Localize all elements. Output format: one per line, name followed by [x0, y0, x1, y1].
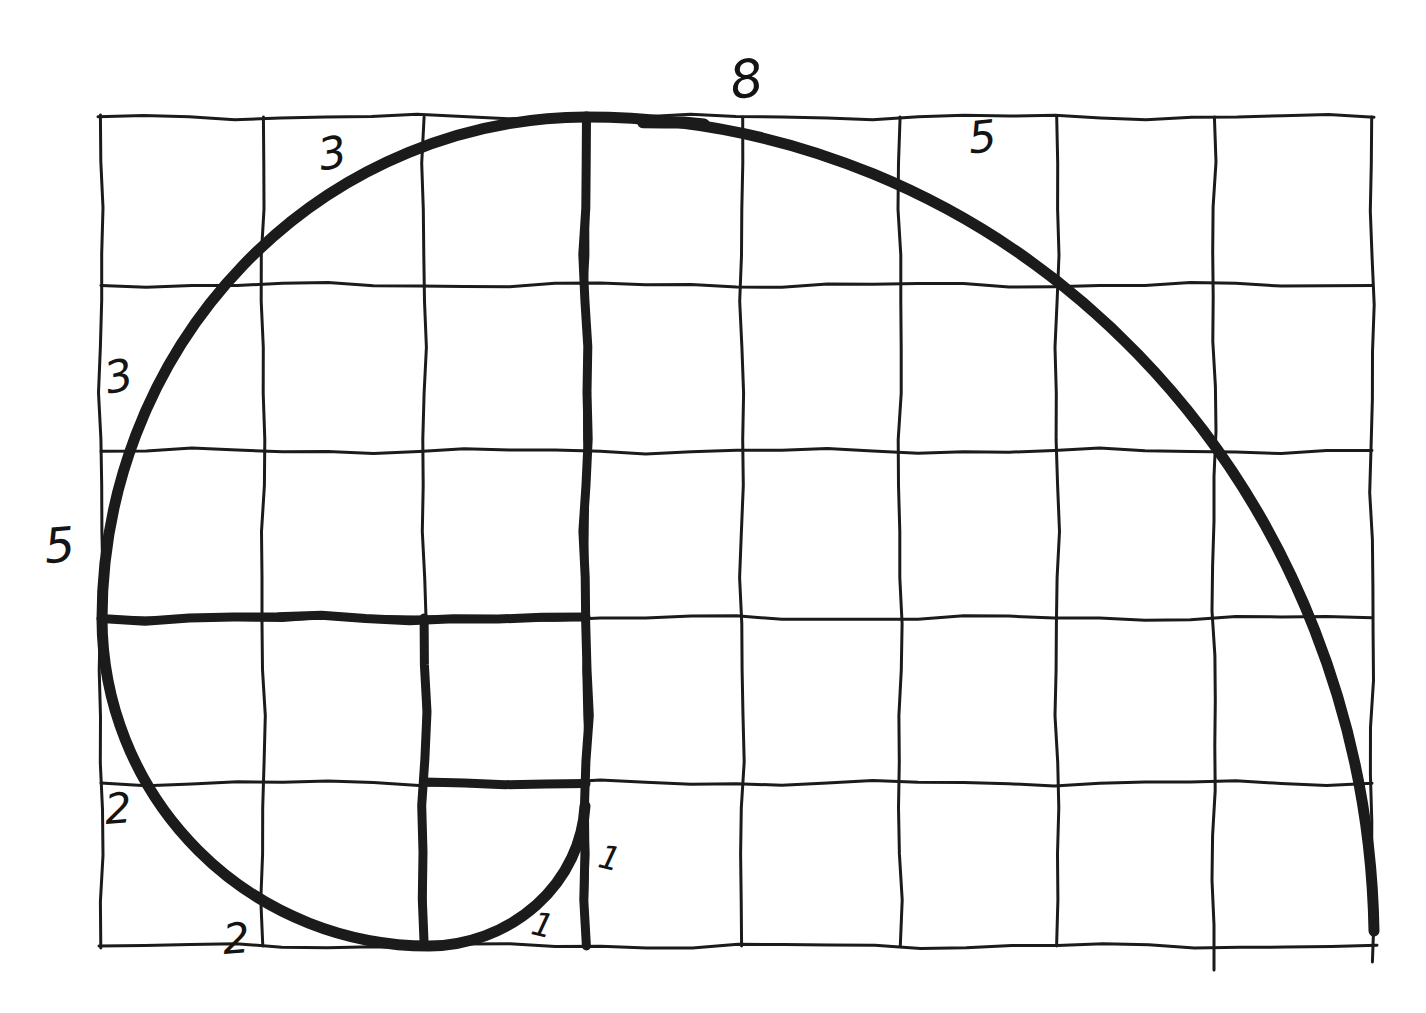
spiral-curve-layer [102, 117, 1374, 946]
label-3-left: 3 [100, 348, 138, 404]
label-1-right: 1 [595, 836, 625, 879]
grid-vertical-line-0 [99, 115, 104, 948]
label-2-left: 2 [103, 783, 133, 834]
grid-lines [98, 114, 1377, 970]
label-5-top-right: 5 [966, 110, 999, 164]
grid-vertical-line-6 [1055, 117, 1060, 946]
fibonacci-spiral-figure: 853352211 [0, 0, 1426, 1013]
grid-horizontal-line-1 [101, 283, 1372, 288]
grid-horizontal-line-5 [99, 944, 1377, 949]
grid-horizontal-line-2 [101, 448, 1372, 454]
divider-3-square-horizontal [101, 615, 586, 621]
label-8-top: 8 [726, 47, 767, 111]
grid-vertical-line-5 [898, 117, 902, 946]
label-3-top-left: 3 [314, 125, 350, 180]
divider-1-square-horizontal [424, 782, 586, 785]
label-2-bottom: 2 [221, 913, 251, 964]
square-size-labels: 853352211 [42, 47, 999, 964]
grid-vertical-line-7 [1212, 117, 1216, 970]
page-background: 853352211 [0, 0, 1426, 1013]
grid-horizontal-line-0 [98, 114, 1374, 120]
grid-horizontal-line-4 [101, 780, 1372, 786]
grid-vertical-line-4 [740, 117, 745, 946]
fibonacci-spiral-curve [102, 117, 1374, 946]
label-5-left: 5 [42, 516, 77, 574]
spiral-overlap-blob [643, 122, 704, 124]
